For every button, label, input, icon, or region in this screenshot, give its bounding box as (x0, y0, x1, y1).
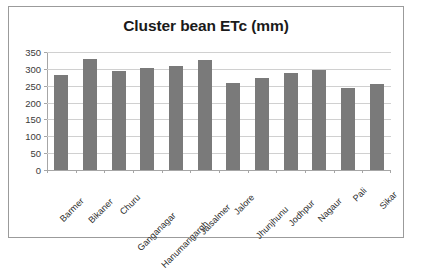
bar-jalore[interactable] (226, 83, 240, 170)
bar-slot (305, 52, 334, 170)
y-tick-label: 200 (25, 97, 41, 108)
x-tick-label: Bikaner (86, 197, 115, 226)
x-tick-slot (104, 170, 133, 174)
x-tick-label: Barmer (58, 196, 86, 224)
x-tick-slot (362, 170, 391, 174)
chart-container: Cluster bean ETc (mm) 050100150200250300… (8, 6, 404, 238)
bar-bikaner[interactable] (83, 59, 97, 170)
x-tick-label: Sikar (377, 190, 399, 212)
bar-sikar[interactable] (370, 84, 384, 170)
x-tick-mark (133, 170, 134, 173)
y-tick-label: 250 (25, 80, 41, 91)
x-tick-slot (248, 170, 277, 174)
bar-jaisalmer[interactable] (198, 60, 212, 170)
x-tick-slot (133, 170, 162, 174)
y-tick-label: 50 (30, 148, 41, 159)
x-tick-label: Nagaur (316, 196, 344, 224)
x-tick-label: Jodhpur (286, 198, 316, 228)
x-tick-mark (47, 170, 48, 173)
x-axis-labels: BarmerBikanerChuruGanganagarHanumangargh… (47, 175, 391, 231)
bar-hanumangargh[interactable] (169, 66, 183, 170)
x-tick-mark (390, 170, 391, 173)
bar-slot (276, 52, 305, 170)
x-tick-mark (162, 170, 163, 173)
x-tick-label: Jhunjhunu (254, 204, 290, 240)
x-tick-slot (276, 170, 305, 174)
x-tick-mark (334, 170, 335, 173)
bar-slot (362, 52, 391, 170)
x-tick-mark (362, 170, 363, 173)
x-tick-slot (305, 170, 334, 174)
x-tick-slot (162, 170, 191, 174)
x-tick-label: Churu (118, 192, 142, 216)
bar-slot (248, 52, 277, 170)
x-tick-mark (248, 170, 249, 173)
bar-slot (162, 52, 191, 170)
bar-jhunjhunu[interactable] (255, 78, 269, 170)
chart-title: Cluster bean ETc (mm) (9, 17, 403, 35)
x-tick-mark (76, 170, 77, 173)
x-tick-slot (334, 170, 363, 174)
bar-barmer[interactable] (54, 75, 68, 170)
x-tick-mark (104, 170, 105, 173)
bar-jodhpur[interactable] (284, 73, 298, 170)
bar-slot (76, 52, 105, 170)
x-tick-label: Ganganagar (136, 210, 178, 252)
bar-churu[interactable] (112, 71, 126, 170)
bar-slot (334, 52, 363, 170)
x-tick-slot (47, 170, 76, 174)
x-tick-label: Jalore (232, 192, 256, 216)
plot-area (47, 52, 391, 170)
bar-slot (133, 52, 162, 170)
y-axis: 050100150200250300350 (9, 52, 47, 170)
bar-nagaur[interactable] (312, 70, 326, 170)
x-tick-slot (190, 170, 219, 174)
bar-slot (104, 52, 133, 170)
y-tick-label: 100 (25, 131, 41, 142)
bar-slot (47, 52, 76, 170)
y-tick-label: 150 (25, 114, 41, 125)
bar-slot (219, 52, 248, 170)
x-axis-ticks (47, 170, 391, 174)
x-tick-mark (219, 170, 220, 173)
x-tick-slot (219, 170, 248, 174)
bar-ganganagar[interactable] (140, 68, 154, 170)
x-tick-mark (276, 170, 277, 173)
y-tick-label: 300 (25, 63, 41, 74)
bar-series (47, 52, 391, 170)
bar-slot (190, 52, 219, 170)
x-tick-mark (305, 170, 306, 173)
y-tick-label: 0 (36, 165, 41, 176)
x-tick-slot (76, 170, 105, 174)
x-tick-mark (190, 170, 191, 173)
bar-pali[interactable] (341, 88, 355, 170)
y-tick-label: 350 (25, 47, 41, 58)
x-tick-label: Pali (351, 186, 369, 204)
